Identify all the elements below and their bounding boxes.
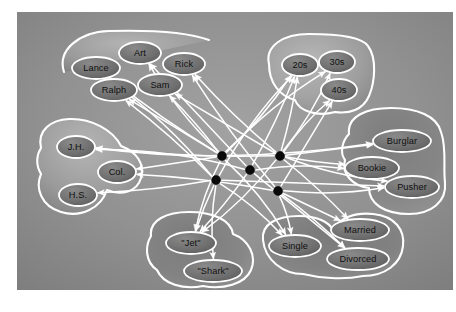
- node-label-burglar: Burglar: [387, 136, 417, 146]
- node-label-lance: Lance: [83, 63, 109, 73]
- node-hs[interactable]: H.S.: [59, 184, 97, 206]
- node-label-hs: H.S.: [69, 190, 87, 200]
- node-lance[interactable]: Lance: [72, 57, 120, 79]
- hidden-unit-h5[interactable]: [274, 187, 283, 196]
- node-label-40s: 40s: [331, 85, 346, 95]
- node-jet[interactable]: "Jet": [166, 232, 216, 254]
- figure-page: ArtLanceRickSamRalph20s30s40sJ.H.Col.H.S…: [0, 0, 456, 312]
- node-divorced[interactable]: Divorced: [327, 248, 389, 270]
- node-label-bookie: Bookie: [358, 163, 387, 173]
- node-rick[interactable]: Rick: [163, 53, 205, 75]
- hidden-unit-h2[interactable]: [276, 152, 285, 161]
- node-30s[interactable]: 30s: [319, 51, 355, 73]
- node-married[interactable]: Married: [331, 219, 389, 241]
- node-label-art: Art: [134, 48, 146, 58]
- node-single[interactable]: Single: [269, 235, 321, 257]
- node-sam[interactable]: Sam: [138, 74, 182, 96]
- node-art[interactable]: Art: [119, 42, 161, 64]
- network-svg: ArtLanceRickSamRalph20s30s40sJ.H.Col.H.S…: [17, 12, 453, 290]
- node-20s[interactable]: 20s: [282, 54, 318, 76]
- node-label-sam: Sam: [150, 80, 169, 90]
- node-label-jh: J.H.: [68, 142, 85, 152]
- node-label-single: Single: [282, 241, 308, 251]
- node-label-rick: Rick: [175, 59, 194, 69]
- node-label-30s: 30s: [329, 57, 344, 67]
- hidden-unit-h1[interactable]: [218, 152, 227, 161]
- node-label-col: Col.: [109, 167, 126, 177]
- node-label-ralph: Ralph: [102, 85, 127, 95]
- node-shark[interactable]: "Shark": [184, 260, 242, 282]
- node-label-divorced: Divorced: [339, 254, 376, 264]
- node-col[interactable]: Col.: [98, 161, 136, 183]
- node-jh[interactable]: J.H.: [57, 136, 95, 158]
- node-label-jet: "Jet": [181, 238, 200, 248]
- hidden-unit-h4[interactable]: [212, 176, 221, 185]
- node-ralph[interactable]: Ralph: [91, 79, 137, 101]
- node-pusher[interactable]: Pusher: [385, 176, 439, 198]
- network-diagram-canvas: ArtLanceRickSamRalph20s30s40sJ.H.Col.H.S…: [17, 12, 453, 290]
- node-bookie[interactable]: Bookie: [345, 157, 399, 179]
- node-label-pusher: Pusher: [397, 182, 427, 192]
- node-label-married: Married: [344, 225, 376, 235]
- hidden-unit-h3[interactable]: [246, 166, 255, 175]
- node-label-20s: 20s: [292, 60, 307, 70]
- node-40s[interactable]: 40s: [321, 79, 357, 101]
- node-label-shark: "Shark": [197, 266, 228, 276]
- node-burglar[interactable]: Burglar: [373, 130, 431, 152]
